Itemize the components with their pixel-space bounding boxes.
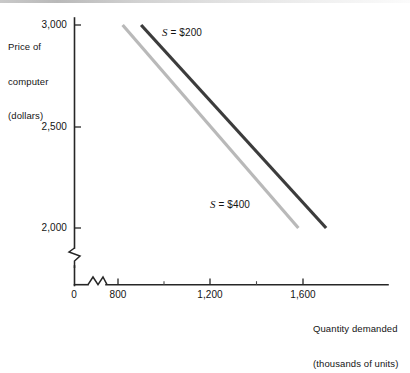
y-tick-label-2500: 2,500 bbox=[33, 121, 67, 133]
x-axis-title: Quantity demanded (thousands of units) bbox=[313, 300, 398, 373]
y-axis-title-line3: (dollars) bbox=[8, 110, 48, 122]
curve-label-s200: S = $200 bbox=[162, 27, 202, 39]
curve-label-s200-value: = $200 bbox=[168, 27, 202, 38]
x-tick-label-0: 0 bbox=[64, 289, 84, 301]
x-tick-label-800: 800 bbox=[103, 289, 133, 301]
y-tick-label-2000: 2,000 bbox=[33, 222, 67, 234]
y-axis-title-line2: computer bbox=[8, 76, 48, 88]
curve-label-s400: S = $400 bbox=[210, 199, 250, 211]
y-axis-title-line1: Price of bbox=[8, 41, 48, 53]
demand-curve-s200 bbox=[141, 25, 326, 228]
curve-label-s400-value: = $400 bbox=[216, 199, 250, 210]
y-tick-label-3000: 3,000 bbox=[33, 19, 67, 31]
y-axis-break-mark bbox=[69, 248, 80, 268]
x-axis-title-line1: Quantity demanded bbox=[313, 323, 398, 335]
x-tick-label-1200: 1,200 bbox=[194, 289, 226, 301]
x-axis-title-line2: (thousands of units) bbox=[313, 358, 398, 370]
x-axis-break-mark bbox=[88, 277, 107, 285]
x-tick-label-1600: 1,600 bbox=[287, 289, 319, 301]
